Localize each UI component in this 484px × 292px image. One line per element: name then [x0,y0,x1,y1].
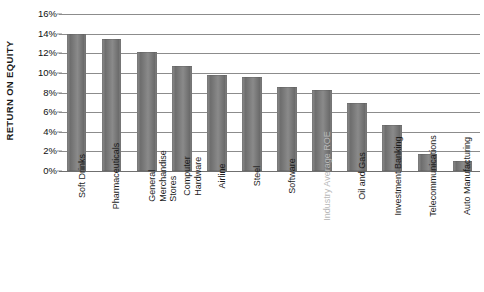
x-axis-label-group: Soft DrinksPharmaceuticalsGeneralMerchan… [59,174,480,292]
x-axis-label-text: Steel [252,166,263,187]
x-axis-label-text: Oil and Gas [357,152,368,200]
bar-slot[interactable] [67,14,87,171]
x-axis-label-text: Telecommunications [427,135,438,217]
roe-bar-chart: RETURN ON EQUITY 16%14%12%10%8%6%4%2%0% … [0,0,484,292]
x-axis-label-text: Investment Banking [392,136,403,215]
y-axis-tick-label: 10% [23,68,57,78]
bar-slot[interactable] [172,14,192,171]
y-axis-title: RETURN ON EQUITY [0,0,18,180]
bar-slot[interactable] [347,14,367,171]
x-axis-label: Steel [234,174,269,292]
x-axis-label-text: Airline [217,163,228,188]
plot-area [59,14,480,171]
x-axis-label: Oil and Gas [340,174,375,292]
x-axis-label: GeneralMerchandiseStores [129,174,164,292]
y-axis-tick-label: 12% [23,49,57,59]
y-axis-tick-label: 6% [23,107,57,117]
y-axis-tick-label: 4% [23,127,57,137]
bar-slot[interactable] [242,14,262,171]
x-axis-label-text: Industry Average ROE [322,131,333,220]
y-axis-tick-label: 16% [23,9,57,19]
x-axis-label: Software [270,174,305,292]
bar[interactable] [67,34,87,171]
y-axis-tick-label: 0% [23,166,57,176]
bar-slot[interactable] [277,14,297,171]
x-axis-label-text: Auto Manufacturing [462,137,473,215]
y-axis-tick-label: 2% [23,147,57,157]
x-axis-label-text: Pharmaceuticals [112,143,123,210]
x-axis-label: Industry Average ROE [305,174,340,292]
bar[interactable] [242,77,262,171]
y-axis-tick-label: 8% [23,88,57,98]
x-axis-label-text: Soft Drinks [77,154,88,198]
bar-group [59,14,480,171]
bar[interactable] [207,75,227,171]
y-axis-tick-label: 14% [23,29,57,39]
gridline-0 [59,171,480,172]
bar-slot[interactable] [207,14,227,171]
x-axis-label-text: Software [287,158,298,194]
y-axis-title-label: RETURN ON EQUITY [4,40,15,140]
x-axis-label: Telecommunications [410,174,445,292]
x-axis-label: Soft Drinks [59,174,94,292]
x-axis-label: Airline [199,174,234,292]
x-axis-label: Investment Banking [375,174,410,292]
x-axis-label: Auto Manufacturing [445,174,480,292]
bar-slot[interactable] [137,14,157,171]
x-axis-label: Pharmaceuticals [94,174,129,292]
x-axis-label: ComputerHardware [164,174,199,292]
y-axis-tick-group: 16%14%12%10%8%6%4%2%0% [19,14,57,171]
